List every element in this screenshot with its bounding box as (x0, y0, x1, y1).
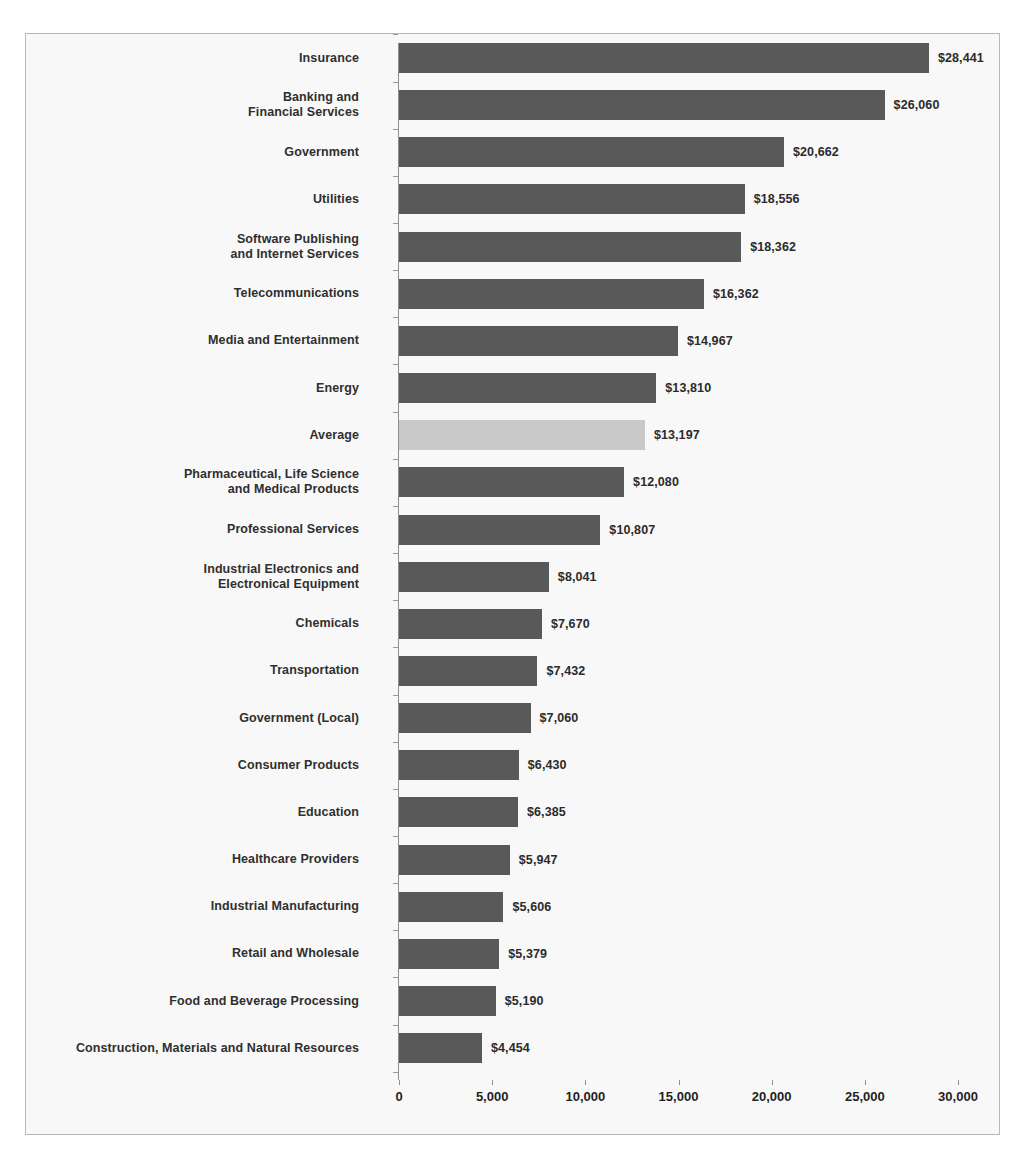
y-axis-tick (393, 364, 398, 365)
category-label-line: Retail and Wholesale (25, 946, 359, 961)
x-axis-tick-label: 25,000 (845, 1089, 885, 1104)
bar (399, 750, 519, 780)
bar-row: Government$20,662 (26, 137, 999, 184)
bar-row: Construction, Materials and Natural Reso… (26, 1033, 999, 1080)
category-label: Telecommunications (25, 286, 359, 301)
bar-value-label: $14,967 (687, 334, 733, 348)
bar (399, 1033, 482, 1063)
bar-row: Transportation$7,432 (26, 656, 999, 703)
y-axis-tick (393, 930, 398, 931)
category-label: Utilities (25, 192, 359, 207)
bar (399, 845, 510, 875)
category-label: Industrial Manufacturing (25, 899, 359, 914)
bar-row: Average$13,197 (26, 420, 999, 467)
x-axis-tick-label: 0 (395, 1089, 402, 1104)
bar-value-label: $7,432 (546, 664, 585, 678)
bar-value-label: $10,807 (609, 523, 655, 537)
bar-row: Retail and Wholesale$5,379 (26, 939, 999, 986)
bar (399, 373, 656, 403)
bar-value-label: $7,670 (551, 617, 590, 631)
bar (399, 43, 929, 73)
bar-row: Consumer Products$6,430 (26, 750, 999, 797)
chart-frame: Insurance$28,441Banking andFinancial Ser… (25, 33, 1000, 1135)
category-label-line: Telecommunications (25, 286, 359, 301)
bar-value-label: $5,606 (512, 900, 551, 914)
bar-chart-plot-area: Insurance$28,441Banking andFinancial Ser… (26, 34, 999, 1134)
y-axis-tick (393, 317, 398, 318)
bar-row: Software Publishingand Internet Services… (26, 232, 999, 279)
y-axis-tick (393, 34, 398, 35)
bar-value-label: $20,662 (793, 145, 839, 159)
category-label: Banking andFinancial Services (25, 90, 359, 120)
category-label: Industrial Electronics andElectronical E… (25, 562, 359, 592)
category-label-line: Government (Local) (25, 711, 359, 726)
x-axis-tick (492, 1080, 493, 1085)
category-label: Transportation (25, 663, 359, 678)
category-label: Healthcare Providers (25, 852, 359, 867)
y-axis-tick (393, 1072, 398, 1073)
x-axis-tick-label: 5,000 (476, 1089, 509, 1104)
category-label: Pharmaceutical, Life Scienceand Medical … (25, 467, 359, 497)
category-label-line: Banking and (25, 90, 359, 105)
bar-value-label: $16,362 (713, 287, 759, 301)
x-axis-tick-label: 30,000 (938, 1089, 978, 1104)
bar-value-label: $13,810 (665, 381, 711, 395)
category-label-line: Government (25, 145, 359, 160)
bar-value-label: $18,362 (750, 240, 796, 254)
bar-row: Industrial Manufacturing$5,606 (26, 892, 999, 939)
category-label-line: Energy (25, 381, 359, 396)
category-label-line: Education (25, 805, 359, 820)
bar-row: Telecommunications$16,362 (26, 279, 999, 326)
x-axis-tick (772, 1080, 773, 1085)
category-label: Average (25, 428, 359, 443)
bar (399, 515, 600, 545)
category-label: Professional Services (25, 522, 359, 537)
bar-value-label: $5,190 (505, 994, 544, 1008)
y-axis-tick (393, 883, 398, 884)
y-axis-tick (393, 82, 398, 83)
bar-value-label: $8,041 (558, 570, 597, 584)
bar-value-label: $26,060 (894, 98, 940, 112)
bar-row: Education$6,385 (26, 797, 999, 844)
y-axis-tick (393, 600, 398, 601)
x-axis-tick-label: 20,000 (752, 1089, 792, 1104)
x-axis-tick (865, 1080, 866, 1085)
y-axis-tick (393, 836, 398, 837)
bar-value-label: $7,060 (540, 711, 579, 725)
category-label-line: Professional Services (25, 522, 359, 537)
y-axis-tick (393, 742, 398, 743)
category-label-line: Food and Beverage Processing (25, 994, 359, 1009)
category-label-line: Chemicals (25, 616, 359, 631)
y-axis-tick (393, 506, 398, 507)
bar-value-label: $18,556 (754, 192, 800, 206)
bar (399, 184, 745, 214)
category-label: Insurance (25, 51, 359, 66)
bar-row: Media and Entertainment$14,967 (26, 326, 999, 373)
category-label: Energy (25, 381, 359, 396)
category-label-line: Media and Entertainment (25, 333, 359, 348)
category-label: Government (25, 145, 359, 160)
bar (399, 797, 518, 827)
bar-value-label: $6,385 (527, 805, 566, 819)
y-axis-tick (393, 459, 398, 460)
bar (399, 986, 496, 1016)
bar (399, 137, 784, 167)
y-axis-tick (393, 647, 398, 648)
category-label: Retail and Wholesale (25, 946, 359, 961)
bar (399, 279, 704, 309)
y-axis-tick (393, 695, 398, 696)
bar-value-label: $12,080 (633, 475, 679, 489)
x-axis-tick (958, 1080, 959, 1085)
bar (399, 562, 549, 592)
bar (399, 703, 531, 733)
bar-row: Healthcare Providers$5,947 (26, 845, 999, 892)
bar (399, 656, 537, 686)
category-label: Chemicals (25, 616, 359, 631)
category-label: Software Publishingand Internet Services (25, 232, 359, 262)
bar-row: Government (Local)$7,060 (26, 703, 999, 750)
bar (399, 232, 741, 262)
bar (399, 90, 885, 120)
bar-row: Insurance$28,441 (26, 43, 999, 90)
y-axis-tick (393, 270, 398, 271)
bar-row: Industrial Electronics andElectronical E… (26, 562, 999, 609)
